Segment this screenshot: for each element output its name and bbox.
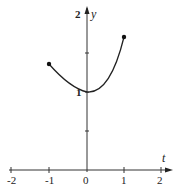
y-tick-label: 2 [75, 8, 81, 20]
endpoint-dot [47, 62, 51, 66]
x-tick-label: 0 [83, 174, 89, 186]
x-axis-arrow-icon [165, 168, 173, 173]
chart: -2 -1 0 1 2 t 2 y 1 [0, 0, 187, 195]
x-tick-label: 1 [121, 174, 127, 186]
y-axis-arrow-icon [85, 6, 90, 14]
x-tick-label: -2 [7, 174, 16, 186]
endpoint-dot [122, 35, 126, 39]
x-tick-label: 2 [157, 174, 163, 186]
y-axis-label: y [90, 7, 97, 21]
x-axis-label: t [162, 151, 166, 165]
x-tick-label: -1 [45, 174, 54, 186]
